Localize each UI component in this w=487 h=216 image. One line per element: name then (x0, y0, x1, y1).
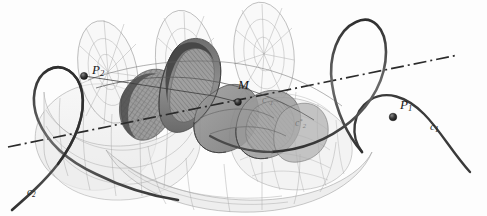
figure-canvas (0, 0, 487, 216)
helicoid-figure: P2 M P1 c1 c2 c*1 c*2 (0, 0, 487, 216)
point-marker-p1 (389, 113, 397, 121)
point-marker-m (235, 99, 242, 106)
point-marker-p2 (80, 72, 87, 79)
